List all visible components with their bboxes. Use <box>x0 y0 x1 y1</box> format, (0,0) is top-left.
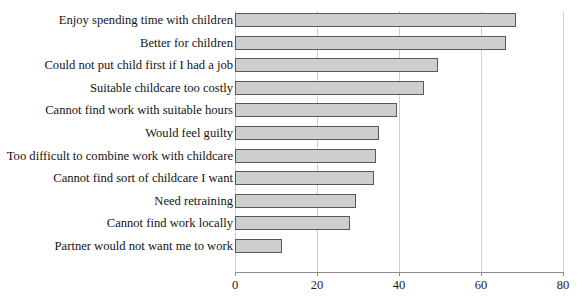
x-tick-label: 80 <box>557 278 570 293</box>
x-tick-40 <box>399 272 400 276</box>
x-tick-label: 60 <box>475 278 488 293</box>
bar-row: Cannot find work locally <box>0 216 585 230</box>
x-tick-label: 0 <box>232 278 238 293</box>
category-label: Need retraining <box>154 192 233 210</box>
category-label: Suitable childcare too costly <box>90 79 233 97</box>
x-tick-label: 20 <box>311 278 324 293</box>
x-tick-80 <box>563 272 564 276</box>
category-label: Could not put child first if I had a job <box>44 56 233 74</box>
bar-row: Cannot find sort of childcare I want <box>0 171 585 185</box>
bar-chart: Enjoy spending time with childrenBetter … <box>0 0 585 302</box>
bar <box>235 103 397 117</box>
bar <box>235 58 438 72</box>
bar <box>235 81 424 95</box>
category-label: Cannot find work locally <box>107 214 233 232</box>
bar <box>235 126 379 140</box>
bar <box>235 13 516 27</box>
category-label: Too difficult to combine work with child… <box>7 147 233 165</box>
category-label: Would feel guilty <box>145 124 233 142</box>
bar-row: Cannot find work with suitable hours <box>0 103 585 117</box>
bar <box>235 216 350 230</box>
bar <box>235 239 282 253</box>
bar-row: Better for children <box>0 36 585 50</box>
x-tick-label: 40 <box>393 278 406 293</box>
category-label: Better for children <box>140 34 233 52</box>
x-tick-0 <box>235 272 236 276</box>
bar-row: Suitable childcare too costly <box>0 81 585 95</box>
bar <box>235 194 356 208</box>
bar-rows: Enjoy spending time with childrenBetter … <box>0 0 585 272</box>
bar-row: Would feel guilty <box>0 126 585 140</box>
category-label: Cannot find work with suitable hours <box>45 101 233 119</box>
bar <box>235 171 374 185</box>
category-label: Cannot find sort of childcare I want <box>53 169 233 187</box>
category-label: Partner would not want me to work <box>55 237 233 255</box>
x-tick-60 <box>481 272 482 276</box>
bar-row: Too difficult to combine work with child… <box>0 149 585 163</box>
bar-row: Need retraining <box>0 194 585 208</box>
category-label: Enjoy spending time with children <box>59 11 233 29</box>
bar <box>235 36 506 50</box>
bar-row: Could not put child first if I had a job <box>0 58 585 72</box>
bar <box>235 149 376 163</box>
bar-row: Enjoy spending time with children <box>0 13 585 27</box>
x-tick-20 <box>317 272 318 276</box>
bar-row: Partner would not want me to work <box>0 239 585 253</box>
